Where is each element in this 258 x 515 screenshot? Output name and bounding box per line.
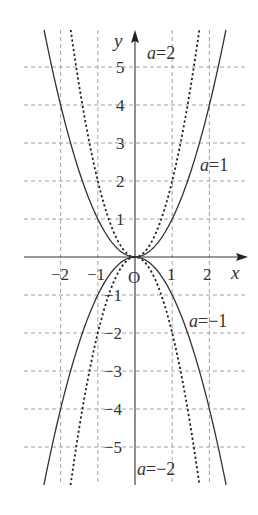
curve-label-variable: a	[189, 311, 198, 331]
curve-label: a=2	[147, 43, 175, 63]
curve-label: a=−1	[189, 311, 227, 331]
curve-label-value: =−2	[146, 459, 175, 479]
plot-area: xyO−2−11254321−1−2−3−4−5 a=2a=1a=−1a=−2	[0, 0, 258, 515]
x-axis-label: x	[230, 262, 240, 283]
curve-labels: a=2a=1a=−1a=−2	[137, 43, 228, 479]
x-tick-label: −2	[51, 265, 69, 284]
y-tick-label: 2	[116, 172, 125, 191]
curve-label-value: =2	[156, 43, 175, 63]
y-axis-label: y	[112, 30, 123, 51]
y-tick-label: 4	[116, 96, 125, 115]
y-tick-label: −1	[104, 286, 122, 305]
y-tick-label: 3	[116, 134, 125, 153]
y-tick-label: −2	[104, 324, 122, 343]
x-tick-label: −1	[87, 265, 105, 284]
curve-label: a=1	[200, 155, 228, 175]
curve-label-value: =1	[209, 155, 228, 175]
y-tick-label: 1	[116, 210, 125, 229]
curve-label-variable: a	[147, 43, 156, 63]
y-tick-label: −3	[104, 362, 122, 381]
curve-label: a=−2	[137, 459, 175, 479]
y-tick-label: −4	[104, 400, 123, 419]
curve-label-value: =−1	[198, 311, 227, 331]
y-tick-label: 5	[116, 58, 125, 77]
curve-label-variable: a	[200, 155, 209, 175]
origin-label: O	[128, 268, 140, 287]
parabola-chart: xyO−2−11254321−1−2−3−4−5 a=2a=1a=−1a=−2	[0, 0, 258, 515]
x-tick-label: 1	[167, 265, 176, 284]
y-tick-label: −5	[104, 438, 122, 457]
curve-label-variable: a	[137, 459, 146, 479]
x-tick-label: 2	[203, 265, 212, 284]
axes	[24, 30, 248, 485]
